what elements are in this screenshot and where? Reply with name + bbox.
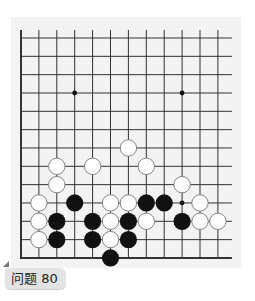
hoshi-point [180, 201, 185, 206]
problem-label: 问题 80 [5, 268, 66, 289]
black-stone[interactable] [102, 249, 119, 266]
hoshi-point [180, 91, 185, 96]
black-stone[interactable] [66, 194, 83, 211]
white-stone[interactable] [120, 140, 136, 156]
white-stone[interactable] [120, 195, 136, 211]
white-stone[interactable] [31, 231, 47, 247]
black-stone[interactable] [156, 194, 173, 211]
white-stone[interactable] [31, 195, 47, 211]
black-stone[interactable] [120, 231, 137, 248]
black-stone[interactable] [174, 213, 191, 230]
black-stone[interactable] [84, 231, 101, 248]
white-stone[interactable] [49, 176, 65, 192]
go-board[interactable] [0, 0, 255, 301]
white-stone[interactable] [138, 213, 154, 229]
hoshi-point [72, 91, 77, 96]
black-stone[interactable] [120, 213, 137, 230]
white-stone[interactable] [192, 213, 208, 229]
white-stone[interactable] [102, 195, 118, 211]
black-stone[interactable] [48, 213, 65, 230]
black-stone[interactable] [48, 231, 65, 248]
white-stone[interactable] [102, 231, 118, 247]
white-stone[interactable] [84, 158, 100, 174]
white-stone[interactable] [210, 213, 226, 229]
black-stone[interactable] [84, 213, 101, 230]
white-stone[interactable] [31, 213, 47, 229]
white-stone[interactable] [102, 213, 118, 229]
white-stone[interactable] [138, 158, 154, 174]
white-stone[interactable] [174, 176, 190, 192]
white-stone[interactable] [49, 158, 65, 174]
label-corner-marker [3, 261, 9, 267]
white-stone[interactable] [192, 195, 208, 211]
black-stone[interactable] [138, 194, 155, 211]
